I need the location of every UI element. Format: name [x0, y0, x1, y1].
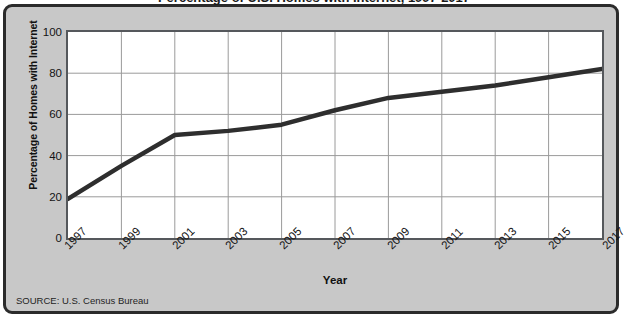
y-tick-label: 20: [32, 191, 62, 203]
chart-title: Percentage of U.S. Homes with Internet, …: [0, 0, 628, 5]
x-axis-ticks: 1997199920012003200520072009201120132015…: [66, 243, 604, 277]
y-tick-label: 100: [32, 26, 62, 38]
y-tick-label: 0: [32, 232, 62, 244]
y-axis-ticks: 020406080100: [28, 30, 62, 240]
y-tick-label: 60: [32, 108, 62, 120]
plot-area: [66, 30, 604, 240]
source-note: SOURCE: U.S. Census Bureau: [16, 295, 149, 306]
gridlines: [68, 32, 602, 238]
x-axis-label: Year: [66, 274, 604, 286]
y-tick-label: 80: [32, 67, 62, 79]
chart-title-clip: Percentage of U.S. Homes with Internet, …: [0, 0, 628, 7]
chart-figure: Percentage of U.S. Homes with Internet, …: [0, 0, 628, 325]
y-tick-label: 40: [32, 150, 62, 162]
plot-svg: [68, 32, 602, 238]
